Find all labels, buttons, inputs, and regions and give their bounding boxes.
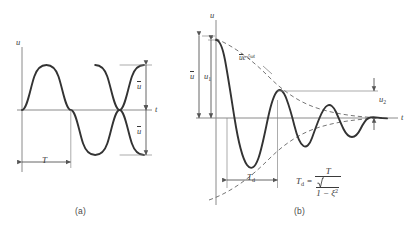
panel-b-u1-subscript: 1 — [208, 76, 211, 82]
panel-b-damped-period-label: Td — [247, 173, 255, 183]
formula-radicand: 1 − ξ2 — [316, 187, 339, 198]
panel-b-u2-label: u2 — [379, 95, 386, 105]
panel-a-t-axis-label: t — [155, 105, 157, 114]
panel-b-u2-subscript: 2 — [383, 99, 386, 105]
panel-b-u1-label: u1 — [204, 72, 211, 82]
formula-fraction: T 1 − ξ2 — [315, 167, 341, 198]
panel-a-caption: (a) — [75, 206, 86, 216]
panel-b-td-subscript: d — [252, 177, 255, 183]
panel-a-amplitude-top-overbar-text: u — [137, 82, 141, 91]
panel-a-period-label: T — [42, 156, 47, 165]
panel-b-damped-period-formula: Td= T 1 − ξ2 — [296, 167, 341, 198]
formula-radicand-exponent: 2 — [335, 188, 338, 194]
panel-a-amplitude-top-label: u — [137, 82, 141, 91]
figure-canvas: u t T u u (a) u t u u1 u2 ue-ξωt Td Td= … — [0, 0, 417, 229]
panel-b-upper-envelope — [209, 36, 382, 118]
formula-denominator: 1 − ξ2 — [315, 176, 341, 198]
panel-b-ubar-overbar-text: u — [190, 72, 194, 81]
panel-b-ubar-label: u — [190, 72, 194, 81]
panel-b-envelope-equation-label: ue-ξωt — [239, 54, 255, 62]
panel-b-u-axis-label: u — [210, 11, 214, 20]
panel-b-envelope-base: u — [239, 54, 243, 62]
panel-a-group — [17, 47, 152, 172]
formula-numerator: T — [315, 167, 341, 176]
panel-b-caption: (b) — [294, 206, 305, 216]
formula-radicand-text: 1 − ξ — [316, 188, 335, 198]
panel-a-amplitude-bottom-label: u — [137, 127, 141, 136]
panel-a-u-axis-label: u — [16, 38, 20, 47]
panel-b-envelope-exponent: -ξωt — [246, 53, 255, 59]
vibration-diagram-svg — [0, 0, 417, 229]
formula-equals: = — [304, 176, 315, 186]
panel-b-t-axis-label: t — [401, 113, 403, 122]
panel-a-amplitude-bottom-overbar-text: u — [137, 127, 141, 136]
